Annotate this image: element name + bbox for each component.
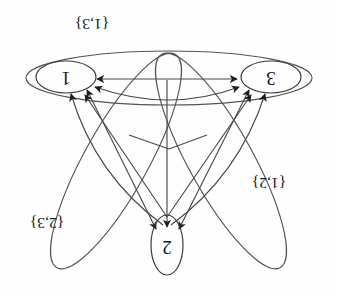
set-label-23: {2,3} [30,215,64,232]
edge-2-1-straight [87,90,156,229]
edge-2-3-straight [179,90,249,229]
node-1-label: 1 [61,68,71,89]
node-3-label: 3 [266,68,276,89]
set-label-12: {1,2} [252,175,286,192]
hull-ellipse-23 [134,39,308,283]
edge-2-1-curve [71,94,163,225]
set-label-13: {1,3} [75,16,109,33]
rotated-figure-canvas: 3 1 2 {1,3} {1,2} {2,3} [0,0,337,295]
node-1[interactable]: 1 [36,61,96,93]
edge-2-3-curve [171,94,265,225]
node-3[interactable]: 3 [241,61,301,93]
edge-cross-left [167,95,251,217]
node-2-label: 2 [162,237,172,258]
edge-inner-chord-left [169,135,207,149]
figure-root: 3 1 2 {1,3} {1,2} {2,3} [0,0,337,295]
hull-ellipse-12 [29,39,203,283]
diagram-svg: 3 1 2 {1,3} {1,2} {2,3} [0,0,337,295]
